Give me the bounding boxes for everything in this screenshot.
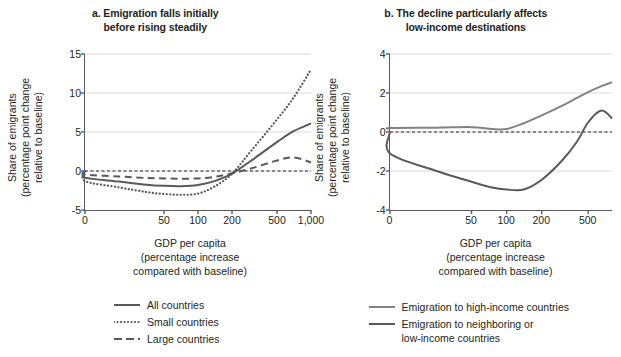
legend-line-key-icon — [369, 317, 395, 331]
x-tick-label: 200 — [223, 214, 241, 226]
figure-two-panel-line-charts: a. Emigration falls initially before ris… — [0, 0, 621, 357]
legend-line-key-icon — [114, 298, 140, 312]
panel-a-x-axis-label: GDP per capita (percentage increase comp… — [60, 236, 320, 278]
y-tick-label: -2 — [376, 165, 385, 177]
legend-label-line: Large countries — [147, 332, 219, 346]
y-tick-label: 4 — [380, 48, 386, 60]
panel-a-title-line-2: before rising steadily — [0, 20, 311, 34]
legend-line-key-icon — [114, 315, 140, 329]
panel-b-y-axis-label-line-3: relative to baseline) — [339, 50, 352, 225]
x-tick-label: 100 — [497, 214, 515, 226]
x-tick-label: 500 — [579, 214, 597, 226]
panel-b-lines — [390, 54, 612, 210]
legend-item-label: Emigration to high-income countries — [402, 300, 570, 314]
legend-item-2[interactable]: Emigration to neighboring orlow-income c… — [369, 317, 570, 345]
panel-a-y-axis-label-line-1: Share of emigrants — [6, 50, 19, 225]
legend-item-label: Large countries — [147, 332, 219, 346]
y-tick-label: -5 — [72, 204, 81, 216]
panel-b-y-axis-label-line-2: (percentage point change — [326, 50, 339, 225]
y-tick-label: 0 — [75, 165, 81, 177]
y-tick-label: 0 — [380, 126, 386, 138]
legend-label-line: Emigration to neighboring or — [402, 317, 534, 331]
x-tick-label: 0 — [82, 214, 88, 226]
y-tick-label: 5 — [75, 126, 81, 138]
legend-item-1[interactable]: All countries — [114, 298, 219, 312]
legend-item-label: Emigration to neighboring orlow-income c… — [402, 317, 534, 345]
legend-label-line: low-income countries — [402, 331, 534, 345]
legend-item-3[interactable]: Large countries — [114, 332, 219, 346]
legend-label-line: Emigration to high-income countries — [402, 300, 570, 314]
legend-line-key-icon — [369, 300, 395, 314]
panel-b-x-axis-label: GDP per capita (percentage increase comp… — [366, 236, 621, 278]
panel-a-y-axis-label-line-3: relative to baseline) — [32, 50, 45, 225]
panel-a-title-line-1: a. Emigration falls initially — [0, 6, 311, 20]
panel-a-lines — [85, 54, 311, 210]
panel-a-y-axis-label: Share of emigrants (percentage point cha… — [6, 50, 45, 225]
legend-line-key-icon — [114, 332, 140, 346]
panel-b-title-line-2: low-income destinations — [311, 20, 621, 34]
y-tick-label: -4 — [376, 204, 385, 216]
panel-a-x-axis-label-line-2: (percentage increase — [60, 250, 320, 264]
panel-b: b. The decline particularly affects low-… — [311, 0, 621, 357]
panel-b-title: b. The decline particularly affects low-… — [311, 6, 621, 34]
panel-a-title: a. Emigration falls initially before ris… — [0, 6, 311, 34]
x-tick-label: 50 — [465, 214, 477, 226]
panel-b-x-axis-label-line-3: compared with baseline) — [366, 264, 621, 278]
y-tick-label: 10 — [69, 87, 81, 99]
series-line-2 — [386, 111, 611, 191]
y-tick-label: 15 — [69, 48, 81, 60]
panel-b-x-axis-label-line-1: GDP per capita — [366, 236, 621, 250]
x-tick-label: 0 — [387, 214, 393, 226]
panel-b-title-line-1: b. The decline particularly affects — [311, 6, 621, 20]
panel-b-y-axis-label-line-1: Share of emigrants — [313, 50, 326, 225]
panel-a-legend: All countriesSmall countriesLarge countr… — [114, 298, 219, 349]
panel-a-plot-area: -50510150501002005001,000 — [84, 54, 311, 211]
legend-label-line: Small countries — [147, 315, 219, 329]
series-line-1 — [386, 82, 611, 129]
legend-item-1[interactable]: Emigration to high-income countries — [369, 300, 570, 314]
legend-label-line: All countries — [147, 298, 204, 312]
y-tick-label: 2 — [380, 87, 386, 99]
panel-a-x-axis-label-line-3: compared with baseline) — [60, 264, 320, 278]
x-tick-label: 100 — [189, 214, 207, 226]
panel-a: a. Emigration falls initially before ris… — [0, 0, 311, 357]
panel-b-plot-area: -4-2024050100200500 — [389, 54, 612, 211]
panel-b-legend: Emigration to high-income countriesEmigr… — [369, 300, 570, 348]
legend-item-label: All countries — [147, 298, 204, 312]
x-tick-label: 200 — [533, 214, 551, 226]
series-line-3 — [82, 157, 311, 178]
panel-b-x-axis-label-line-2: (percentage increase — [366, 250, 621, 264]
legend-item-2[interactable]: Small countries — [114, 315, 219, 329]
panel-b-y-axis-label: Share of emigrants (percentage point cha… — [313, 50, 352, 225]
panel-a-y-axis-label-line-2: (percentage point change — [19, 50, 32, 225]
legend-item-label: Small countries — [147, 315, 219, 329]
panel-a-x-axis-label-line-1: GDP per capita — [60, 236, 320, 250]
x-tick-label: 500 — [268, 214, 286, 226]
x-tick-label: 50 — [158, 214, 170, 226]
